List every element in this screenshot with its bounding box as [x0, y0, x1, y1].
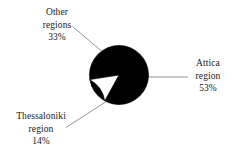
pie-label-thessaloniki-region: Thessaloniki region 14%: [2, 110, 80, 148]
pie-chart-figure: Other regions 33% Attica region 53% Thes…: [0, 0, 236, 165]
pie-label-attica-region: Attica region 53%: [180, 57, 236, 95]
pie-label-attica-region-percent: 53%: [180, 82, 236, 95]
pie-label-attica-region-name-1: Attica: [180, 57, 236, 70]
pie-label-thessaloniki-region-name-2: region: [2, 123, 80, 136]
pie-label-other-regions: Other regions 33%: [26, 6, 88, 44]
pie-label-other-regions-name-1: Other: [26, 6, 88, 19]
pie-label-thessaloniki-region-name-1: Thessaloniki: [2, 110, 80, 123]
pie-label-other-regions-percent: 33%: [26, 31, 88, 44]
pie-label-other-regions-name-2: regions: [26, 19, 88, 32]
pie-label-thessaloniki-region-percent: 14%: [2, 135, 80, 148]
pie-label-attica-region-name-2: region: [180, 70, 236, 83]
